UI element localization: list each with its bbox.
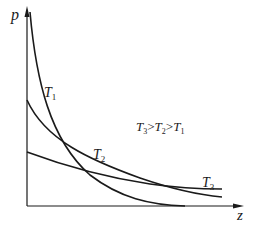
x-axis-label: z <box>236 207 243 223</box>
curve-t3-label: T3 <box>202 175 215 192</box>
diagram-canvas: p z T1 T2 T3 T3>T2>T1 <box>0 0 256 230</box>
y-axis-label: p <box>10 6 19 24</box>
curve-t3 <box>27 152 222 189</box>
curve-t1 <box>30 12 185 206</box>
curve-t2-label: T2 <box>93 147 105 164</box>
temperature-relation: T3>T2>T1 <box>136 119 184 136</box>
curve-t1-label: T1 <box>44 85 56 102</box>
y-axis-arrow-icon <box>25 6 30 17</box>
curve-t2 <box>27 100 222 197</box>
